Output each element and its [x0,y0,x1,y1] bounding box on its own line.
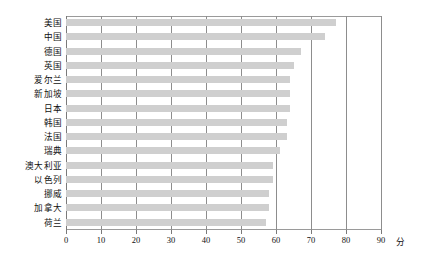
category-label: 瑞典 [0,144,62,158]
bar-row [66,73,381,87]
bar [66,76,290,83]
bar-row [66,16,381,30]
x-axis-unit-label: 分 [396,235,405,247]
x-tick-label: 10 [97,235,106,245]
bar [66,33,325,40]
x-tick-label: 70 [307,235,316,245]
bar-row [66,216,381,230]
x-tick-label: 80 [342,235,351,245]
bar [66,19,336,26]
x-tick-mark [101,230,102,234]
bar-row [66,130,381,144]
bar-row [66,187,381,201]
bar [66,147,280,154]
bar [66,204,269,211]
category-axis-labels: 美国中国德国英国爱尔兰新加坡日本韩国法国瑞典澳大利亚以色列挪威加拿大荷兰 [0,16,62,230]
gridline-90 [381,16,382,230]
plot-area [66,16,381,230]
bar [66,119,287,126]
bar-row [66,201,381,215]
category-label: 新加坡 [0,87,62,101]
bar-row [66,87,381,101]
bar-row [66,159,381,173]
x-tick-mark [381,230,382,234]
x-tick-mark [66,230,67,234]
bar [66,62,294,69]
category-label: 爱尔兰 [0,73,62,87]
category-label: 英国 [0,59,62,73]
x-tick-label: 50 [237,235,246,245]
bar [66,190,269,197]
x-axis: 分 0102030405060708090 [0,230,426,250]
bar-rows [66,16,381,230]
x-tick-mark [206,230,207,234]
x-tick-mark [136,230,137,234]
bar [66,133,287,140]
bar-row [66,45,381,59]
bar-row [66,59,381,73]
category-label: 加拿大 [0,201,62,215]
bar-row [66,30,381,44]
x-tick-mark [346,230,347,234]
x-tick-label: 0 [64,235,68,245]
x-tick-label: 20 [132,235,141,245]
category-label: 韩国 [0,116,62,130]
x-tick-label: 60 [272,235,281,245]
x-tick-label: 40 [202,235,211,245]
x-tick-mark [171,230,172,234]
bar [66,90,290,97]
category-label: 挪威 [0,187,62,201]
bar-row [66,173,381,187]
bar [66,219,266,226]
category-label: 荷兰 [0,216,62,230]
bar [66,105,290,112]
x-tick-mark [276,230,277,234]
bar-row [66,102,381,116]
category-label: 日本 [0,102,62,116]
x-tick-mark [311,230,312,234]
category-label: 以色列 [0,173,62,187]
x-tick-mark [241,230,242,234]
category-label: 澳大利亚 [0,159,62,173]
bar [66,48,301,55]
x-tick-label: 90 [377,235,386,245]
category-label: 德国 [0,45,62,59]
bar-row [66,116,381,130]
category-label: 法国 [0,130,62,144]
category-label: 美国 [0,16,62,30]
bar [66,162,273,169]
bar-row [66,144,381,158]
bar [66,176,273,183]
horizontal-bar-chart: 美国中国德国英国爱尔兰新加坡日本韩国法国瑞典澳大利亚以色列挪威加拿大荷兰 分 0… [0,0,426,261]
x-tick-label: 30 [167,235,176,245]
category-label: 中国 [0,30,62,44]
